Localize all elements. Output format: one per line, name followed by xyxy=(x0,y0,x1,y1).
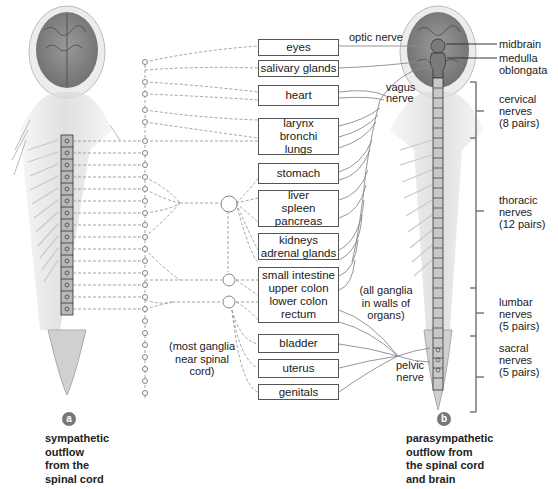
organ-label: heart xyxy=(285,89,311,102)
caption-line: sympathetic xyxy=(45,432,109,446)
organ-box-bladder: bladder xyxy=(258,334,339,353)
organ-box-uterus: uterus xyxy=(258,359,339,378)
label-line: (5 pairs) xyxy=(499,366,539,378)
note-line: in walls of xyxy=(346,297,426,310)
organ-box-liver-spleen-pancreas: liver spleen pancreas xyxy=(258,190,339,227)
organ-label: pancreas xyxy=(275,215,322,228)
label-line: lumbar xyxy=(499,296,539,308)
optic-nerve-label: optic nerve xyxy=(349,31,403,44)
right-figure-anatomy xyxy=(390,6,484,410)
organ-label: stomach xyxy=(277,167,320,180)
organ-box-heart: heart xyxy=(258,85,339,106)
organ-label: rectum xyxy=(281,308,316,321)
caption-line: outflow from xyxy=(406,446,493,460)
left-figure-anatomy xyxy=(12,6,120,395)
organ-label: lungs xyxy=(285,143,313,156)
note-line: (all ganglia xyxy=(346,284,426,297)
note-line: organs) xyxy=(346,309,426,322)
note-line: near spinal xyxy=(160,353,244,366)
organ-label: upper colon xyxy=(268,282,328,295)
vagus-nerve-label: vagus nerve xyxy=(386,82,415,104)
label-line: sacral xyxy=(499,342,539,354)
caption-line: spinal cord xyxy=(45,473,109,487)
organ-box-salivary-glands: salivary glands xyxy=(258,60,339,77)
cervical-nerves-label: cervical nerves (8 pairs) xyxy=(499,93,539,129)
panel-b-badge: b xyxy=(437,412,451,426)
organ-label: uterus xyxy=(283,362,315,375)
medulla-oblongata-label: medulla oblongata xyxy=(499,52,547,76)
label-line: oblongata xyxy=(499,64,547,76)
organ-box-eyes: eyes xyxy=(258,39,339,56)
label-line: nerves xyxy=(499,308,539,320)
label-line: (5 pairs) xyxy=(499,320,539,332)
organ-label: kidneys xyxy=(279,234,318,247)
label-line: nerve xyxy=(386,93,415,104)
autonomic-nervous-system-diagram: eyes salivary glands heart larynx bronch… xyxy=(0,0,558,489)
caption-line: parasympathetic xyxy=(406,432,493,446)
label-line: (8 pairs) xyxy=(499,117,539,129)
organ-box-genitals: genitals xyxy=(258,384,339,400)
organ-label: bronchi xyxy=(280,130,318,143)
caption-line: and brain xyxy=(406,473,493,487)
midbrain-label: midbrain xyxy=(499,38,541,51)
label-line: nerves xyxy=(499,354,539,366)
organ-label: larynx xyxy=(283,117,314,130)
sympathetic-ganglia-note: (most ganglia near spinal cord) xyxy=(160,340,244,378)
label-line: nerves xyxy=(499,105,539,117)
pelvic-nerve-label: pelvic nerve xyxy=(396,359,424,383)
parasympathetic-ganglia-note: (all ganglia in walls of organs) xyxy=(346,284,426,322)
label-line: nerves xyxy=(499,206,545,218)
organ-label: adrenal glands xyxy=(261,247,336,260)
organ-box-stomach: stomach xyxy=(258,163,339,184)
label-line: thoracic xyxy=(499,194,545,206)
organ-label: lower colon xyxy=(269,295,327,308)
note-line: cord) xyxy=(160,365,244,378)
label-line: (12 pairs) xyxy=(499,218,545,230)
panel-b-caption: parasympathetic outflow from the spinal … xyxy=(406,432,493,486)
organ-label: small intestine xyxy=(262,269,335,282)
caption-line: the spinal cord xyxy=(406,459,493,473)
organ-label: genitals xyxy=(279,386,319,399)
label-line: pelvic xyxy=(396,359,424,371)
label-line: medulla xyxy=(499,52,547,64)
panel-a-caption: sympathetic outflow from the spinal cord xyxy=(45,432,109,486)
organ-box-intestine-colon-rectum: small intestine upper colon lower colon … xyxy=(258,267,339,323)
thoracic-nerves-label: thoracic nerves (12 pairs) xyxy=(499,194,545,230)
organ-box-kidneys-adrenal-glands: kidneys adrenal glands xyxy=(258,233,339,260)
sacral-nerves-label: sacral nerves (5 pairs) xyxy=(499,342,539,378)
caption-line: outflow xyxy=(45,446,109,460)
lumbar-nerves-label: lumbar nerves (5 pairs) xyxy=(499,296,539,332)
organ-label: spleen xyxy=(282,202,316,215)
label-line: nerve xyxy=(396,371,424,383)
label-line: cervical xyxy=(499,93,539,105)
organ-label: salivary glands xyxy=(260,62,336,75)
organ-box-larynx-bronchi-lungs: larynx bronchi lungs xyxy=(258,118,339,155)
organ-label: bladder xyxy=(279,337,317,350)
organ-label: eyes xyxy=(286,41,310,54)
note-line: (most ganglia xyxy=(160,340,244,353)
organ-label: liver xyxy=(288,189,309,202)
caption-line: from the xyxy=(45,459,109,473)
panel-a-badge: a xyxy=(62,412,76,426)
